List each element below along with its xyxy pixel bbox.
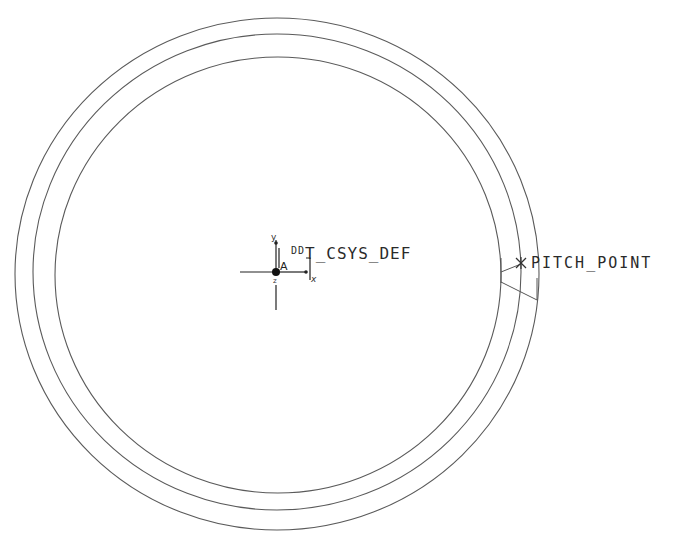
x-axis-letter: x bbox=[310, 274, 317, 284]
pitch-point-label[interactable]: PITCH_POINT bbox=[531, 254, 652, 272]
csys-label-prefix: DD bbox=[291, 245, 305, 256]
csys-label-text: T_CSYS_DEF bbox=[305, 244, 411, 263]
y-axis-letter: y bbox=[271, 232, 277, 242]
cad-drawing-canvas[interactable]: A y x z bbox=[0, 0, 684, 554]
pitch-point-marker-icon[interactable] bbox=[516, 257, 526, 269]
csys-label[interactable]: DDT_CSYS_DEF bbox=[291, 244, 411, 263]
csys-origin-dot bbox=[272, 268, 280, 276]
x-axis-tip bbox=[304, 270, 308, 274]
csys-marker-a: A bbox=[280, 260, 288, 273]
z-axis-letter: z bbox=[273, 277, 277, 285]
